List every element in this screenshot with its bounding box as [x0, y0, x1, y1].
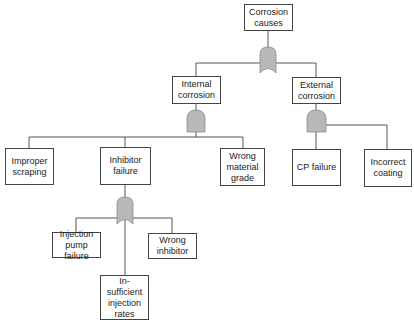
node-inhibitor-failure: Inhibitor failure	[100, 147, 151, 185]
node-injection-pump-failure: Injection pump failure	[52, 232, 101, 258]
node-improper-scraping: Improper scraping	[5, 148, 54, 185]
connector-lines	[0, 0, 414, 327]
node-internal-corrosion: Internal corrosion	[172, 76, 221, 104]
node-external-corrosion: External corrosion	[292, 77, 341, 104]
node-wrong-material-grade: Wrong material grade	[220, 148, 265, 186]
node-cp-failure: CP failure	[292, 149, 341, 186]
node-wrong-inhibitor: Wrong inhibitor	[148, 233, 197, 259]
node-corrosion-causes: Corrosion causes	[244, 4, 293, 31]
and-gate-icon	[307, 110, 326, 132]
node-insufficient-injection-rates: In-sufficient injection rates	[100, 275, 149, 320]
and-gate-icon	[187, 110, 205, 132]
node-incorrect-coating: Incorrect coating	[364, 149, 412, 187]
or-gate-icon	[260, 47, 276, 73]
